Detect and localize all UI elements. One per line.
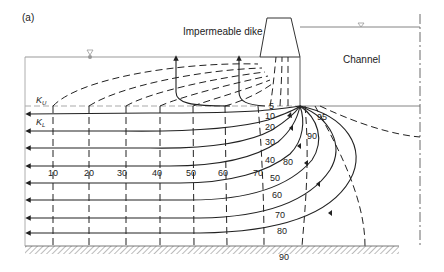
svg-text:50: 50: [186, 168, 196, 178]
impermeable-dike: [260, 18, 300, 57]
svg-text:95: 95: [317, 112, 327, 122]
svg-text:80: 80: [277, 226, 287, 236]
channel-label: Channel: [343, 54, 380, 65]
svg-text:40: 40: [265, 155, 275, 165]
svg-text:10: 10: [265, 111, 275, 121]
dike-label: Impermeable dike: [183, 26, 263, 37]
svg-text:30: 30: [117, 168, 127, 178]
svg-text:60: 60: [218, 168, 228, 178]
seepage-diagram: (a) Impermeable dike Channel KU KL 10 20…: [0, 0, 444, 272]
svg-text:70: 70: [275, 210, 285, 220]
equipotential-labels: 10 20 30 40 50 60 70 80 90 95: [48, 112, 327, 178]
svg-text:10: 10: [48, 168, 58, 178]
upward-flowlines: [176, 58, 265, 106]
svg-text:20: 20: [265, 122, 275, 132]
upper-k-label: KU: [36, 95, 47, 106]
svg-text:60: 60: [272, 190, 282, 200]
svg-text:40: 40: [152, 168, 162, 178]
flow-net-figure: (a) Impermeable dike Channel KU KL 10 20…: [0, 0, 444, 272]
svg-text:5: 5: [269, 101, 274, 111]
svg-text:80: 80: [283, 157, 293, 167]
water-level-icon-right: [358, 23, 364, 27]
lower-equipotentials: [53, 106, 420, 246]
impermeable-base: [25, 246, 399, 254]
panel-label: (a): [22, 12, 34, 23]
upper-equipotentials: [53, 57, 288, 106]
svg-text:20: 20: [84, 168, 94, 178]
water-level-icon-left: [87, 50, 93, 59]
svg-text:70: 70: [253, 168, 263, 178]
svg-text:30: 30: [265, 137, 275, 147]
svg-text:90: 90: [307, 131, 317, 141]
lower-k-label: KL: [36, 117, 45, 128]
svg-text:50: 50: [270, 173, 280, 183]
svg-text:90: 90: [279, 252, 289, 262]
